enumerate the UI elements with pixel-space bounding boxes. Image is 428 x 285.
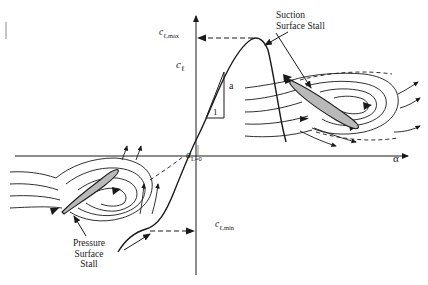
zero-lift-angle-subscript: L=0 [191, 155, 202, 162]
cl-min-guide-line [150, 228, 195, 235]
pressure-surface-stall-flowfield [10, 146, 184, 221]
lift-curve-stall-figure: cℓ,max cℓ cℓ,min α αL=0 a 1 Suction Surf… [0, 0, 428, 285]
cl-min-subscript: ℓ,min [219, 224, 234, 231]
lift-curve [118, 38, 286, 252]
slope-run-label: 1 [213, 107, 218, 117]
cl-max-label: cℓ,max [159, 27, 179, 39]
pressure-stall-line3: Stall [58, 259, 120, 270]
x-axis-label: α [393, 152, 399, 164]
suction-surface-stall-flowfield [245, 72, 420, 146]
y-axis-label: cℓ [176, 58, 184, 74]
cl-max-subscript: ℓ,max [163, 32, 179, 39]
exit-streamlines-upper [394, 82, 420, 132]
suction-stall-line2: Surface Stall [276, 21, 325, 32]
zero-lift-angle-label: αL=0 [186, 150, 202, 162]
pressure-stall-line1: Pressure [58, 238, 120, 249]
airfoil-section-lower [62, 169, 118, 214]
cl-min-label: cℓ,min [215, 219, 234, 231]
pressure-stall-line2: Surface [58, 249, 120, 260]
slope-rise-label: a [229, 80, 233, 91]
pressure-stall-curve-arrow [124, 234, 150, 250]
pressure-stall-leader-arrow [74, 216, 86, 236]
suction-stall-line1: Suction [276, 10, 325, 21]
suction-surface-stall-annotation: Suction Surface Stall [276, 10, 325, 31]
oncoming-streamlines-lower [10, 172, 62, 208]
pressure-surface-stall-annotation: Pressure Surface Stall [58, 238, 120, 270]
separation-bubble-mid-lower [66, 168, 145, 216]
wake-dashed-lines-lower [150, 156, 184, 180]
y-axis-subscript: ℓ [181, 64, 185, 73]
cl-max-guide-line [197, 35, 256, 42]
